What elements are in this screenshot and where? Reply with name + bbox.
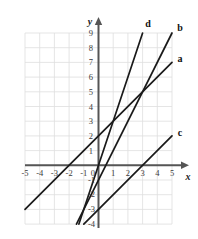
y-tick-1: 1	[89, 146, 93, 156]
y-tick-8: 8	[89, 43, 93, 53]
x-tick-neg3: -3	[51, 168, 58, 178]
x-tick-3: 3	[140, 168, 144, 178]
y-tick-2: 2	[89, 131, 93, 141]
y-tick-labels: 9 8 7 6 5 4 3 2 1 -1 -2 -3 -4	[88, 28, 96, 229]
y-tick-5: 5	[89, 87, 93, 97]
y-tick-7: 7	[89, 57, 93, 67]
line-label-b: b	[177, 22, 183, 33]
x-tick-4: 4	[155, 168, 160, 178]
line-label-d: d	[145, 18, 151, 29]
x-axis-arrow	[181, 162, 189, 169]
x-tick-neg2: -2	[66, 168, 73, 178]
y-axis-arrow	[95, 17, 102, 25]
line-label-a: a	[178, 53, 183, 64]
x-tick-neg4: -4	[36, 168, 44, 178]
y-tick-neg4: -4	[88, 219, 96, 229]
graph-svg: 9 8 7 6 5 4 3 2 1 -1 -2 -3 -4 -5 -4 -3 -…	[0, 0, 198, 239]
coordinate-plane-figure: 9 8 7 6 5 4 3 2 1 -1 -2 -3 -4 -5 -4 -3 -…	[0, 0, 198, 239]
x-axis-label: x	[185, 171, 191, 182]
y-tick-neg2: -2	[88, 189, 95, 199]
origin-label: 0	[91, 168, 95, 178]
y-axis-label: y	[87, 16, 93, 27]
x-tick-2: 2	[126, 168, 130, 178]
x-tick-1: 1	[111, 168, 115, 178]
line-label-c: c	[178, 127, 183, 138]
y-tick-6: 6	[89, 72, 93, 82]
y-tick-neg3: -3	[88, 204, 95, 214]
x-tick-5: 5	[170, 168, 174, 178]
x-tick-neg5: -5	[21, 168, 28, 178]
y-tick-9: 9	[89, 28, 93, 38]
y-tick-3: 3	[89, 116, 93, 126]
x-tick-neg1: -1	[80, 168, 87, 178]
